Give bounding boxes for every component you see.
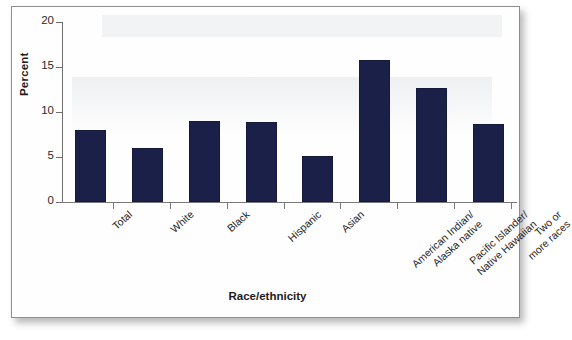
plot-area: 05101520 [62,22,517,202]
x-axis-tick [227,203,228,209]
bar [246,122,277,202]
bar [75,130,106,202]
x-axis-tick [113,203,114,209]
y-axis-tick [56,157,62,158]
y-axis-tick-label: 20 [28,14,54,26]
x-axis-tick [454,203,455,209]
bar [473,124,504,202]
bar [302,156,333,202]
y-axis-tick [56,112,62,113]
y-axis-tick-label: 10 [28,104,54,116]
y-axis-line [62,22,63,203]
x-axis-tick [511,203,512,209]
x-axis-tick [170,203,171,209]
x-axis-tick [284,203,285,209]
x-axis-tick [397,203,398,209]
y-axis-tick-label: 15 [28,59,54,71]
bar [416,88,447,202]
x-axis-tick [340,203,341,209]
y-axis-tick [56,22,62,23]
bar [189,121,220,202]
y-axis-tick [56,202,62,203]
bar [132,148,163,202]
y-axis-tick-label: 0 [28,194,54,206]
y-axis-tick [56,67,62,68]
x-axis-title: Race/ethnicity [0,290,535,302]
y-axis-tick-label: 5 [28,149,54,161]
x-axis-line [62,202,517,203]
bar [359,60,390,202]
